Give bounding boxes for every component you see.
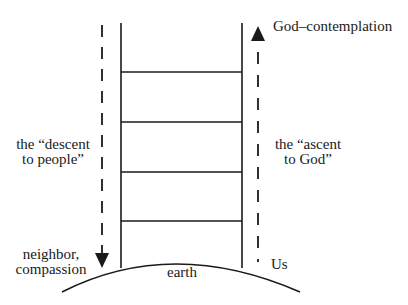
descent-label-line2: to people” xyxy=(12,152,94,167)
ascent-arrowhead-icon xyxy=(251,26,265,41)
ascent-label: the “ascent to God” xyxy=(270,137,346,167)
descent-label-line1: the “descent xyxy=(12,137,94,152)
neighbor-label-line1: neighbor, xyxy=(14,247,88,262)
ascent-label-line2: to God” xyxy=(270,152,346,167)
earth-label: earth xyxy=(167,265,197,280)
us-label: Us xyxy=(271,257,288,272)
neighbor-label-line2: compassion xyxy=(14,262,88,277)
descent-arrowhead-icon xyxy=(95,253,109,268)
ladder-rungs xyxy=(121,72,242,221)
ascent-label-line1: the “ascent xyxy=(270,137,346,152)
god-contemplation-label: God–contemplation xyxy=(273,19,392,34)
descent-label: the “descent to people” xyxy=(12,137,94,167)
neighbor-compassion-label: neighbor, compassion xyxy=(14,247,88,277)
